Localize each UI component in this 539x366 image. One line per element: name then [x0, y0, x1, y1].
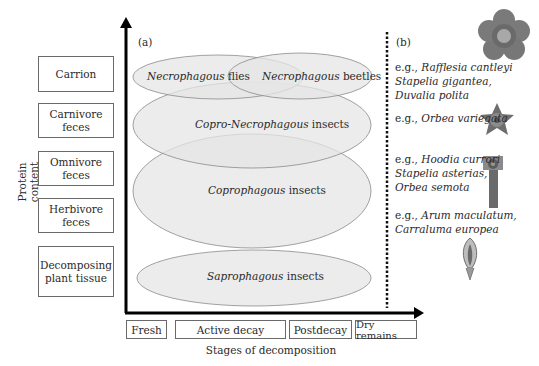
- substrate-herbivore-feces: Herbivore feces: [38, 198, 114, 233]
- example-prefix: e.g.,: [395, 61, 421, 73]
- example-line: e.g., Rafflesia cantleyi: [395, 60, 513, 74]
- label-coprophagous-insects: Coprophagous insects: [208, 184, 326, 196]
- example-line: e.g., Hoodia currori: [395, 152, 500, 166]
- panel-b-tag: (b): [396, 36, 411, 48]
- label-italic: Coprophagous: [208, 184, 285, 196]
- y-axis-arrowhead: [120, 17, 132, 28]
- example-hoodia: e.g., Hoodia currori Stapelia asterias, …: [395, 152, 500, 194]
- example-line: Stapelia asterias,: [395, 166, 500, 180]
- example-orbea: e.g., Orbea variegata: [395, 111, 508, 125]
- panel-a-tag: (a): [138, 36, 152, 48]
- species-name: Orbea semota: [395, 181, 470, 193]
- label-italic: Copro-Necrophagous: [195, 118, 309, 130]
- label-necrophagous-beetles: Necrophagous beetles: [262, 70, 381, 82]
- example-line: Duvalia polita: [395, 88, 513, 102]
- y-axis-label: Protein content: [16, 142, 40, 222]
- species-name: Stapelia gigantea,: [395, 75, 492, 87]
- label-italic: Necrophagous: [262, 70, 340, 82]
- example-arum: e.g., Arum maculatum, Carraluma europea: [395, 208, 517, 236]
- example-rafflesia: e.g., Rafflesia cantleyi Stapelia gigant…: [395, 60, 513, 102]
- label-italic: Necrophagous: [147, 70, 225, 82]
- example-line: Carraluma europea: [395, 222, 517, 236]
- species-name: Orbea variegata: [421, 112, 507, 124]
- substrate-decomposing-plant-tissue: Decomposing plant tissue: [38, 246, 114, 297]
- example-prefix: e.g.,: [395, 153, 421, 165]
- example-line: e.g., Arum maculatum,: [395, 208, 517, 222]
- example-line: e.g., Orbea variegata: [395, 111, 508, 125]
- label-rest: insects: [283, 270, 324, 282]
- insect-ellipses: [133, 53, 372, 306]
- species-name: Rafflesia cantleyi: [421, 61, 512, 73]
- label-rest: insects: [285, 184, 326, 196]
- species-name: Arum maculatum,: [421, 209, 516, 221]
- example-line: Stapelia gigantea,: [395, 74, 513, 88]
- species-name: Hoodia currori: [421, 153, 500, 165]
- label-rest: beetles: [340, 70, 382, 82]
- x-axis-arrowhead: [414, 307, 424, 319]
- label-saprophagous-insects: Saprophagous insects: [207, 270, 324, 282]
- stage-dry-remains: Dry remains: [355, 320, 417, 339]
- label-necrophagous-flies: Necrophagous flies: [147, 70, 250, 82]
- label-copro-necrophagous-insects: Copro-Necrophagous insects: [195, 118, 349, 130]
- substrate-carrion: Carrion: [38, 56, 114, 92]
- label-italic: Saprophagous: [207, 270, 283, 282]
- example-prefix: e.g.,: [395, 209, 421, 221]
- stage-postdecay: Postdecay: [289, 320, 352, 339]
- label-rest: flies: [225, 70, 250, 82]
- species-name: Stapelia asterias,: [395, 167, 487, 179]
- substrate-omnivore-feces: Omnivore feces: [38, 151, 114, 186]
- stage-fresh: Fresh: [126, 320, 167, 339]
- species-name: Duvalia polita: [395, 89, 469, 101]
- stage-active-decay: Active decay: [175, 320, 286, 339]
- arum-spathe-icon: [463, 238, 476, 280]
- example-prefix: e.g.,: [395, 112, 421, 124]
- x-axis-label: Stages of decomposition: [126, 344, 416, 356]
- rafflesia-flower-icon: [478, 9, 530, 60]
- label-rest: insects: [309, 118, 350, 130]
- example-line: Orbea semota: [395, 180, 500, 194]
- substrate-carnivore-feces: Carnivore feces: [38, 103, 114, 138]
- species-name: Carraluma europea: [395, 223, 499, 235]
